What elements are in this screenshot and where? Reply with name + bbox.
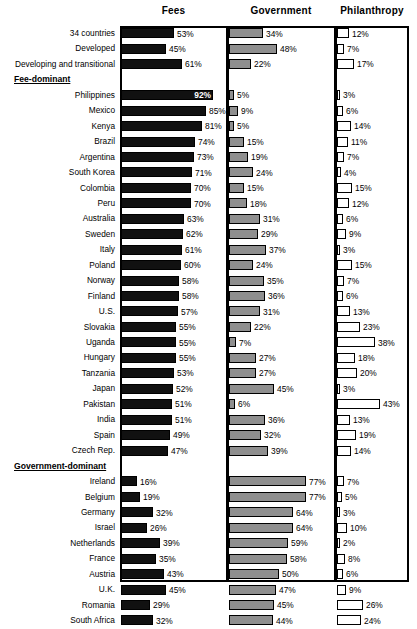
bar-value-philanthropy: 3% xyxy=(343,89,355,101)
bar-cell-government: 35% xyxy=(229,273,335,288)
bar-value-philanthropy: 13% xyxy=(353,306,370,318)
row-label: Mexico xyxy=(0,104,115,116)
bar-cell-government: 47% xyxy=(229,582,335,597)
bar-value-fees: 85% xyxy=(209,105,226,117)
bar-cell-government: 77% xyxy=(229,490,335,505)
bar-value-fees: 47% xyxy=(171,445,188,457)
bar-value-government: 47% xyxy=(279,584,296,596)
bar-value-philanthropy: 7% xyxy=(347,476,359,488)
bar-cell-government: 34% xyxy=(229,26,335,41)
bar-cell-fees: 61% xyxy=(121,242,227,257)
bar-cell-philanthropy: 15% xyxy=(337,181,408,196)
bar-value-government: 31% xyxy=(263,306,280,318)
bar-fees xyxy=(121,44,166,54)
row-label: India xyxy=(0,413,115,425)
bar-value-government: 18% xyxy=(250,198,267,210)
bar-fees xyxy=(121,492,140,502)
bar-value-government: 48% xyxy=(280,43,297,55)
row-label: Norway xyxy=(0,274,115,286)
chart-row: Italy61%37%3% xyxy=(0,242,417,257)
bar-cell-philanthropy: 24% xyxy=(337,613,408,628)
bar-government xyxy=(229,507,293,517)
bar-value-philanthropy: 7% xyxy=(347,275,359,287)
row-label: Japan xyxy=(0,382,115,394)
bar-cell-fees: 73% xyxy=(121,150,227,165)
bar-government xyxy=(229,368,256,378)
bar-cell-fees: 43% xyxy=(121,567,227,582)
bar-value-philanthropy: 15% xyxy=(355,259,372,271)
bar-cell-fees: 16% xyxy=(121,474,227,489)
chart-row: Argentina73%19%7% xyxy=(0,150,417,165)
bar-cell-government: 45% xyxy=(229,381,335,396)
bar-value-fees: 19% xyxy=(143,491,160,503)
bar-fees xyxy=(121,229,183,239)
row-label: South Africa xyxy=(0,614,115,626)
bar-philanthropy xyxy=(337,90,340,100)
bar-government xyxy=(229,554,287,564)
row-label: Australia xyxy=(0,212,115,224)
bar-philanthropy xyxy=(337,260,352,270)
bar-value-government: 34% xyxy=(266,28,283,40)
bar-government xyxy=(229,476,306,486)
bar-cell-fees: 45% xyxy=(121,41,227,56)
bar-cell-government: 36% xyxy=(229,412,335,427)
bar-cell-fees: 62% xyxy=(121,227,227,242)
bar-fees xyxy=(121,121,202,131)
chart-row: South Korea71%24%4% xyxy=(0,165,417,180)
bar-government xyxy=(229,167,253,177)
bar-value-fees: 57% xyxy=(181,306,198,318)
bar-government xyxy=(229,306,260,316)
bar-cell-government: 31% xyxy=(229,304,335,319)
bar-cell-fees: 47% xyxy=(121,443,227,458)
bar-fees xyxy=(121,28,174,38)
bar-government xyxy=(229,600,274,610)
bar-cell-philanthropy: 12% xyxy=(337,26,408,41)
bar-cell-philanthropy: 8% xyxy=(337,551,408,566)
bar-philanthropy xyxy=(337,245,340,255)
bar-value-government: 27% xyxy=(259,352,276,364)
chart-row: Finland58%36%6% xyxy=(0,289,417,304)
row-label: Spain xyxy=(0,429,115,441)
bar-cell-government: 48% xyxy=(229,41,335,56)
bar-philanthropy xyxy=(337,137,348,147)
bar-philanthropy xyxy=(337,121,351,131)
bar-value-fees: 55% xyxy=(179,352,196,364)
bar-value-fees: 16% xyxy=(140,476,157,488)
bar-government xyxy=(229,523,293,533)
bar-value-government: 64% xyxy=(296,507,313,519)
bar-fees xyxy=(121,368,174,378)
bar-cell-fees: 51% xyxy=(121,397,227,412)
bar-cell-philanthropy: 3% xyxy=(337,505,408,520)
row-label: Ireland xyxy=(0,475,115,487)
bar-philanthropy xyxy=(337,569,343,579)
bar-government xyxy=(229,229,258,239)
group-heading-row: Government-dominant xyxy=(0,459,417,474)
bar-cell-fees: 35% xyxy=(121,551,227,566)
bar-value-government: 6% xyxy=(238,398,250,410)
chart-row: Ireland16%77%7% xyxy=(0,474,417,489)
bar-government xyxy=(229,399,235,409)
bar-fees xyxy=(121,507,153,517)
bar-value-government: 77% xyxy=(309,491,326,503)
bar-value-fees: 55% xyxy=(179,337,196,349)
bar-philanthropy xyxy=(337,492,342,502)
bar-cell-philanthropy: 3% xyxy=(337,242,408,257)
bar-value-fees: 60% xyxy=(184,259,201,271)
bar-philanthropy xyxy=(337,291,343,301)
bar-fees xyxy=(121,615,153,625)
bar-value-fees: 45% xyxy=(169,584,186,596)
bar-value-philanthropy: 9% xyxy=(349,584,361,596)
bar-cell-fees: 85% xyxy=(121,103,227,118)
column-header-government: Government xyxy=(227,5,335,16)
bar-value-government: 64% xyxy=(296,522,313,534)
bar-value-philanthropy: 9% xyxy=(349,228,361,240)
bar-cell-philanthropy: 13% xyxy=(337,412,408,427)
bar-value-fees: 43% xyxy=(167,568,184,580)
bar-philanthropy xyxy=(337,322,360,332)
bar-value-government: 7% xyxy=(239,337,251,349)
bar-government xyxy=(229,198,247,208)
group-heading-label: Fee-dominant xyxy=(14,73,115,85)
bar-value-fees: 61% xyxy=(185,244,202,256)
bar-government xyxy=(229,415,265,425)
bar-value-philanthropy: 3% xyxy=(343,244,355,256)
